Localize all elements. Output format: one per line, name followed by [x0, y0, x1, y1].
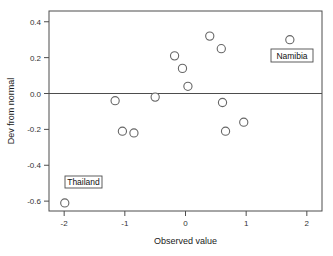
- scatter-plot-figure: -2-10120.40.20.0-0.2-0.4-0.6Observed val…: [0, 0, 333, 256]
- y-axis-tick-label: 0.2: [30, 54, 42, 63]
- data-point: [170, 52, 178, 60]
- x-axis-tick-label: -2: [61, 219, 69, 228]
- data-point: [111, 97, 119, 105]
- y-axis-title: Dev from normal: [6, 78, 16, 145]
- data-point: [221, 127, 229, 135]
- x-axis-tick-label: -1: [121, 219, 129, 228]
- annotation-label: Thailand: [67, 177, 100, 187]
- annotation-label: Namibia: [276, 51, 307, 61]
- x-axis-tick-label: 0: [183, 219, 188, 228]
- y-axis-tick-label: -0.6: [27, 197, 41, 206]
- x-axis-tick-label: 1: [244, 219, 249, 228]
- data-point: [217, 45, 225, 53]
- y-axis-tick-label: -0.4: [27, 161, 41, 170]
- data-point: [240, 118, 248, 126]
- data-point: [130, 129, 138, 137]
- plot-canvas: -2-10120.40.20.0-0.2-0.4-0.6Observed val…: [0, 0, 333, 256]
- data-point: [286, 36, 294, 44]
- x-axis-title: Observed value: [154, 236, 217, 246]
- y-axis-tick-label: 0.4: [30, 18, 42, 27]
- y-axis-tick-label: -0.2: [27, 125, 41, 134]
- data-point: [218, 98, 226, 106]
- data-point: [178, 64, 186, 72]
- x-axis-tick-label: 2: [305, 219, 310, 228]
- y-axis-tick-label: 0.0: [30, 90, 42, 99]
- data-point: [151, 93, 159, 101]
- data-point: [184, 82, 192, 90]
- data-point: [118, 127, 126, 135]
- data-point: [206, 32, 214, 40]
- data-point: [61, 199, 69, 207]
